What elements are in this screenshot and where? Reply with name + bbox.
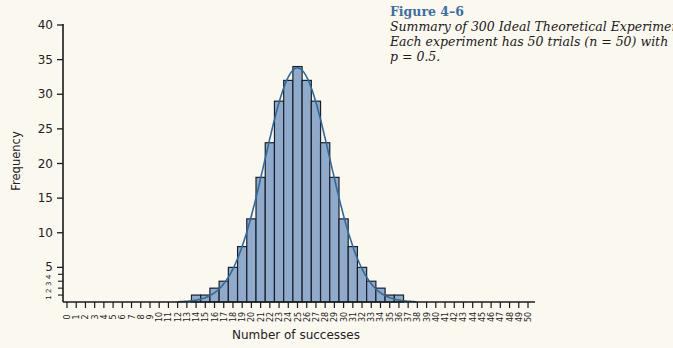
y-axis-label: Frequency (9, 131, 23, 191)
x-tick-label: 13 (183, 312, 192, 322)
histogram-bar (330, 177, 339, 302)
x-tick-label: 37 (404, 312, 413, 322)
histogram-bar (284, 80, 293, 302)
x-tick-label: 15 (201, 312, 210, 322)
x-tick-label: 3 (91, 314, 100, 319)
x-tick-label: 46 (487, 312, 496, 322)
x-tick-label: 31 (349, 312, 358, 322)
histogram-bar (339, 219, 348, 302)
histogram-bars (191, 67, 403, 302)
x-tick-label: 33 (367, 312, 376, 322)
x-tick-label: 41 (441, 312, 450, 322)
x-tick-label: 14 (192, 312, 201, 322)
histogram-bar (321, 143, 330, 302)
x-tick-label: 32 (358, 312, 367, 322)
figure-caption: Figure 4–6 Summary of 300 Ideal Theoreti… (390, 4, 670, 64)
caption-line-2: Each experiment has 50 trials (n = 50) w… (390, 34, 670, 49)
y-minor-tick-label: 4 (45, 274, 53, 279)
x-tick-label: 28 (321, 312, 330, 322)
x-tick-label: 39 (423, 312, 432, 322)
caption-line-3: p = 0.5. (390, 49, 670, 64)
figure-label: Figure 4–6 (390, 4, 670, 19)
x-tick-label: 44 (469, 312, 478, 322)
histogram-bar (228, 267, 237, 302)
x-tick-label: 22 (266, 312, 275, 322)
y-tick-label: 25 (38, 122, 53, 136)
x-tick-label: 6 (118, 314, 127, 319)
x-tick-label: 30 (340, 312, 349, 322)
x-tick-label: 1 (72, 314, 81, 319)
y-tick-label: 20 (38, 157, 53, 171)
x-tick-label: 11 (164, 312, 173, 322)
x-tick-label: 36 (395, 312, 404, 322)
x-tick-label: 8 (137, 314, 146, 319)
x-tick-label: 38 (413, 312, 422, 322)
x-tick-label: 0 (63, 314, 72, 319)
x-axis-label: Number of successes (232, 328, 360, 342)
x-tick-label: 40 (432, 312, 441, 322)
histogram-bar (247, 219, 256, 302)
x-tick-label: 16 (211, 312, 220, 322)
x-tick-label: 35 (386, 312, 395, 322)
x-tick-label: 23 (275, 312, 284, 322)
x-tick-label: 10 (155, 312, 164, 322)
y-tick-label: 40 (38, 18, 53, 32)
x-tick-label: 27 (312, 312, 321, 322)
y-tick-label: 10 (38, 226, 53, 240)
x-tick-label: 2 (81, 314, 90, 319)
y-minor-tick-label: 1 (45, 295, 53, 299)
x-tick-label: 48 (506, 312, 515, 322)
x-tick-label: 7 (128, 314, 137, 319)
x-tick-label: 50 (524, 312, 533, 322)
x-tick-label: 26 (303, 312, 312, 322)
x-tick-label: 43 (459, 312, 468, 322)
y-axis-ticks: 5101520253035401234 (38, 18, 63, 300)
histogram-bar (256, 177, 265, 302)
y-tick-label: 5 (45, 260, 53, 274)
x-tick-label: 45 (478, 312, 487, 322)
y-tick-label: 35 (38, 53, 53, 67)
x-axis-ticks: 0123456789101112131415161718192021222324… (63, 302, 533, 322)
y-tick-label: 15 (38, 191, 53, 205)
x-tick-label: 34 (376, 312, 385, 322)
y-minor-tick-label: 3 (45, 281, 53, 285)
histogram-bar (357, 267, 366, 302)
x-tick-label: 20 (247, 312, 256, 322)
x-tick-label: 5 (109, 314, 118, 319)
x-tick-label: 47 (496, 312, 505, 322)
x-tick-label: 29 (330, 312, 339, 322)
histogram-bar (274, 101, 283, 302)
caption-line-1: Summary of 300 Ideal Theoretical Experim… (390, 19, 670, 34)
x-tick-label: 42 (450, 312, 459, 322)
x-tick-label: 4 (100, 314, 109, 319)
x-tick-label: 12 (174, 312, 183, 322)
histogram-bar (265, 143, 274, 302)
x-tick-label: 18 (229, 312, 238, 322)
y-minor-tick-label: 2 (45, 288, 53, 292)
x-tick-label: 49 (515, 312, 524, 322)
x-tick-label: 24 (284, 312, 293, 322)
x-tick-label: 21 (257, 312, 266, 322)
x-tick-label: 9 (146, 314, 155, 319)
histogram-bar (311, 101, 320, 302)
x-tick-label: 17 (220, 312, 229, 322)
y-tick-label: 30 (38, 87, 53, 101)
histogram-bar (302, 80, 311, 302)
x-tick-label: 25 (294, 312, 303, 322)
histogram-bar (293, 67, 302, 302)
x-tick-label: 19 (238, 312, 247, 322)
